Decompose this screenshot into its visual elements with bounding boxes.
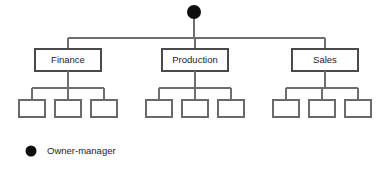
sales-unit-box-2[interactable] <box>309 100 335 117</box>
production-unit-box-3[interactable] <box>218 100 244 117</box>
department-label-production: Production <box>172 54 217 65</box>
sales-unit-box-1[interactable] <box>273 100 299 117</box>
production-unit-box-2[interactable] <box>182 100 208 117</box>
legend-owner-manager-icon <box>26 146 37 157</box>
org-chart-canvas: Finance Production Sales <box>0 0 387 176</box>
sales-unit-box-3[interactable] <box>345 100 371 117</box>
production-unit-box-1[interactable] <box>146 100 172 117</box>
legend-owner-manager-label: Owner-manager <box>47 145 116 156</box>
department-label-sales: Sales <box>313 54 337 65</box>
org-chart-diagram: Finance Production Sales <box>0 0 387 176</box>
finance-unit-box-1[interactable] <box>19 100 45 117</box>
finance-unit-box-2[interactable] <box>55 100 81 117</box>
department-label-finance: Finance <box>51 54 85 65</box>
finance-unit-box-3[interactable] <box>91 100 117 117</box>
owner-manager-node-icon[interactable] <box>187 5 201 19</box>
